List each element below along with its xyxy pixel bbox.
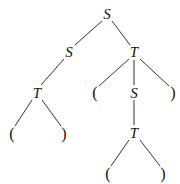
tree-edge-n9-n10 xyxy=(111,140,129,166)
tree-node-nonterminal: T xyxy=(130,45,138,60)
tree-edge-n2-n6 xyxy=(140,59,169,86)
tree-node-nonterminal: T xyxy=(33,86,41,101)
tree-node-terminal: ( xyxy=(92,85,97,101)
tree-edge-n3-n7 xyxy=(15,100,32,126)
tree-edge-n2-n4 xyxy=(99,59,129,86)
tree-edge-n1-n3 xyxy=(41,59,64,85)
tree-node-terminal: ) xyxy=(61,126,66,142)
tree-node-terminal: ) xyxy=(160,166,165,182)
tree-edges xyxy=(0,0,180,184)
parse-tree-diagram: SSTT(S)()T() xyxy=(0,0,180,184)
tree-node-terminal: ( xyxy=(9,126,14,142)
tree-node-nonterminal: T xyxy=(130,126,138,141)
tree-node-nonterminal: S xyxy=(65,45,73,60)
tree-node-terminal: ) xyxy=(170,85,175,101)
tree-edge-n0-n1 xyxy=(75,21,102,45)
tree-node-terminal: ( xyxy=(105,166,110,182)
tree-node-nonterminal: S xyxy=(103,7,111,22)
tree-edge-n9-n11 xyxy=(140,140,160,166)
tree-node-nonterminal: S xyxy=(130,86,138,101)
tree-edge-n3-n8 xyxy=(42,100,61,126)
tree-edge-n0-n2 xyxy=(112,21,130,45)
